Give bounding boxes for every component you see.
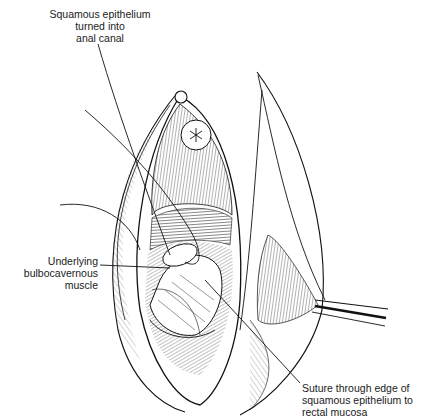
label-bulbocavernous-muscle: Underlying bulbocavernous muscle bbox=[6, 255, 98, 291]
label-line: rectal mucosa bbox=[302, 406, 437, 418]
label-line: Underlying bbox=[6, 255, 98, 267]
label-line: muscle bbox=[6, 279, 98, 291]
label-line: Suture through edge of bbox=[302, 382, 437, 394]
label-line: anal canal bbox=[40, 32, 160, 44]
surgical-illustration bbox=[0, 0, 437, 418]
retractor-instrument bbox=[312, 300, 388, 326]
label-line: squamous epithelium to bbox=[302, 394, 437, 406]
label-line: turned into bbox=[40, 20, 160, 32]
label-line: Squamous epithelium bbox=[40, 8, 160, 20]
label-squamous-epithelium: Squamous epithelium turned into anal can… bbox=[40, 8, 160, 44]
label-suture: Suture through edge of squamous epitheli… bbox=[302, 382, 437, 418]
label-line: bulbocavernous bbox=[6, 267, 98, 279]
